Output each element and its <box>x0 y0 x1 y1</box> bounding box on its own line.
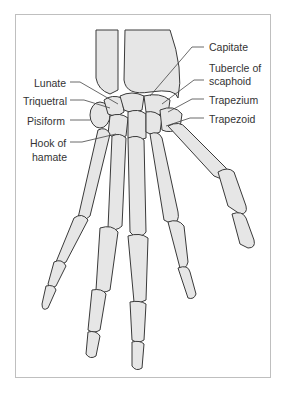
label-lunate: Lunate <box>34 77 66 89</box>
label-tubercle-of-scaphoid-line2: scaphoid <box>209 75 251 87</box>
hand-skeleton-illustration <box>0 0 284 394</box>
label-pisiform: Pisiform <box>27 115 65 127</box>
label-capitate: Capitate <box>209 41 248 53</box>
label-trapezium: Trapezium <box>209 94 258 106</box>
label-hook-of-hamate-line2: hamate <box>32 151 67 163</box>
label-trapezoid: Trapezoid <box>209 113 255 125</box>
label-hook-of-hamate-line1: Hook of <box>30 137 66 149</box>
label-tubercle-of-scaphoid-line1: Tubercle of <box>209 62 261 74</box>
label-triquetral: Triquetral <box>23 95 67 107</box>
